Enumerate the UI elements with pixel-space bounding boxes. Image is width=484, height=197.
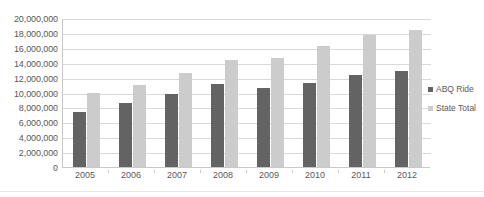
y-axis-tick-mark bbox=[54, 49, 58, 50]
y-axis-tick-mark bbox=[54, 64, 58, 65]
bar-abq-ride-2010[interactable] bbox=[303, 83, 316, 167]
y-axis-tick-mark bbox=[54, 153, 58, 154]
x-axis-tick-label: 2007 bbox=[167, 170, 187, 180]
bar-state-total-2005[interactable] bbox=[87, 93, 100, 168]
bar-abq-ride-2007[interactable] bbox=[165, 94, 178, 167]
y-axis-tick-mark bbox=[54, 94, 58, 95]
y-axis-tick-label: 10,000,000 bbox=[14, 89, 58, 99]
plot-area bbox=[62, 19, 430, 168]
legend-item-abq-ride[interactable]: ABQ Ride bbox=[428, 84, 484, 94]
y-axis-tick-mark bbox=[54, 108, 58, 109]
y-axis-tick-label: 18,000,000 bbox=[14, 29, 58, 39]
y-axis-tick-label: 12,000,000 bbox=[14, 74, 58, 84]
y-axis-tick-mark bbox=[54, 34, 58, 35]
legend-label: ABQ Ride bbox=[436, 84, 474, 94]
y-axis-tick-mark bbox=[54, 79, 58, 80]
bar-state-total-2007[interactable] bbox=[179, 73, 192, 167]
bar-abq-ride-2005[interactable] bbox=[73, 112, 86, 167]
x-axis-tick-label: 2011 bbox=[351, 170, 370, 180]
y-axis-tick-mark bbox=[54, 168, 58, 169]
x-axis: 20052006200720082009201020112012 bbox=[62, 170, 430, 186]
y-axis-tick-label: 6,000,000 bbox=[19, 118, 58, 128]
y-axis-tick-label: 4,000,000 bbox=[19, 133, 58, 143]
x-axis-tick-mark bbox=[108, 170, 109, 173]
bar-group bbox=[155, 19, 201, 167]
y-axis-tick-mark bbox=[54, 19, 58, 20]
bar-state-total-2011[interactable] bbox=[363, 35, 376, 167]
bottom-divider bbox=[0, 191, 484, 192]
x-axis-tick-mark bbox=[338, 170, 339, 173]
bar-state-total-2012[interactable] bbox=[409, 30, 422, 167]
legend-swatch-icon bbox=[428, 106, 433, 111]
bar-state-total-2006[interactable] bbox=[133, 85, 146, 167]
y-axis-tick-mark bbox=[54, 123, 58, 124]
x-axis-tick-label: 2005 bbox=[75, 170, 95, 180]
legend-item-state-total[interactable]: State Total bbox=[428, 103, 484, 113]
y-axis-tick-mark bbox=[54, 138, 58, 139]
bar-abq-ride-2009[interactable] bbox=[257, 88, 270, 167]
bar-group bbox=[293, 19, 339, 167]
x-axis-tick-mark bbox=[292, 170, 293, 173]
y-axis: 02,000,0004,000,0006,000,0008,000,00010,… bbox=[0, 19, 58, 168]
y-axis-tick-label: 14,000,000 bbox=[14, 59, 58, 69]
x-axis-tick-label: 2006 bbox=[121, 170, 141, 180]
y-axis-tick-label: 2,000,000 bbox=[19, 148, 58, 158]
x-axis-tick-label: 2012 bbox=[397, 170, 417, 180]
x-axis-tick-mark bbox=[246, 170, 247, 173]
bar-state-total-2009[interactable] bbox=[271, 58, 284, 168]
x-axis-tick-mark bbox=[384, 170, 385, 173]
bar-group bbox=[109, 19, 155, 167]
legend-label: State Total bbox=[436, 103, 476, 113]
x-axis-tick-label: 2008 bbox=[213, 170, 233, 180]
x-axis-tick-label: 2010 bbox=[305, 170, 325, 180]
y-axis-tick-label: 20,000,000 bbox=[14, 14, 58, 24]
bar-group bbox=[339, 19, 385, 167]
bar-abq-ride-2011[interactable] bbox=[349, 75, 362, 167]
legend-swatch-icon bbox=[428, 87, 433, 92]
bar-abq-ride-2008[interactable] bbox=[211, 84, 224, 167]
bar-state-total-2010[interactable] bbox=[317, 46, 330, 167]
bar-group bbox=[201, 19, 247, 167]
y-axis-tick-label: 16,000,000 bbox=[14, 44, 58, 54]
x-axis-tick-label: 2009 bbox=[259, 170, 279, 180]
bar-group bbox=[385, 19, 431, 167]
chart-legend: ABQ RideState Total bbox=[428, 84, 484, 122]
bar-abq-ride-2012[interactable] bbox=[395, 71, 408, 167]
bar-group bbox=[63, 19, 109, 167]
x-axis-tick-mark bbox=[154, 170, 155, 173]
y-axis-tick-label: 8,000,000 bbox=[19, 103, 58, 113]
bar-abq-ride-2006[interactable] bbox=[119, 103, 132, 167]
bar-chart: 02,000,0004,000,0006,000,0008,000,00010,… bbox=[0, 0, 484, 197]
x-axis-tick-mark bbox=[200, 170, 201, 173]
bar-state-total-2008[interactable] bbox=[225, 60, 238, 167]
bar-group bbox=[247, 19, 293, 167]
